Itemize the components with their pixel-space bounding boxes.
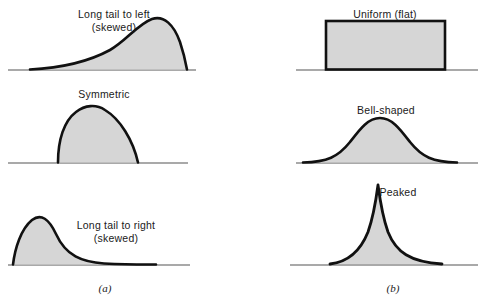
label-long-tail-right: Long tail to right (skewed) bbox=[77, 219, 156, 244]
panel-symmetric bbox=[8, 106, 188, 163]
label-peaked: Peaked bbox=[380, 186, 417, 199]
label-uniform-flat: Uniform (flat) bbox=[353, 8, 417, 21]
panel-uniform-flat bbox=[296, 21, 478, 70]
label-long-tail-left: Long tail to left (skewed) bbox=[78, 8, 150, 33]
label-symmetric: Symmetric bbox=[78, 88, 129, 101]
group-label-a: (a) bbox=[99, 282, 112, 294]
distribution-shapes-figure: Long tail to left (skewed) Symmetric Lon… bbox=[0, 0, 486, 306]
panel-bell-shaped bbox=[296, 118, 478, 163]
label-bell-shaped: Bell-shaped bbox=[357, 104, 415, 117]
curve-bell-shaped-fill bbox=[303, 118, 457, 163]
rect-uniform-flat bbox=[326, 21, 445, 70]
distribution-shapes-svg bbox=[0, 0, 486, 306]
group-label-b: (b) bbox=[387, 282, 400, 294]
